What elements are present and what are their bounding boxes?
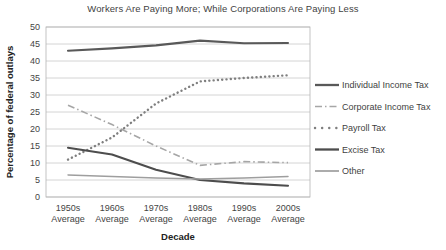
series-group: [68, 41, 288, 186]
legend-label: Corporate Income Tax: [342, 102, 431, 112]
y-axis-title: Percentage of federal outlays: [4, 46, 15, 179]
x-tick-label-average: Average: [227, 214, 260, 224]
x-tick-label-average: Average: [139, 214, 172, 224]
legend-item-other[interactable]: Other: [315, 166, 365, 176]
chart-svg: Percentage of federal outlays 0510152025…: [0, 0, 446, 250]
series-line-payroll-tax: [68, 75, 288, 159]
legend-label: Excise Tax: [342, 145, 385, 155]
y-tick-label: 15: [30, 141, 40, 151]
x-tick-label-decade: 2000s: [276, 203, 301, 213]
legend-item-corporate-income-tax[interactable]: Corporate Income Tax: [315, 102, 431, 112]
y-tick-label: 35: [30, 73, 40, 83]
x-axis-title: Decade: [161, 231, 195, 242]
x-tick-label-average: Average: [183, 214, 216, 224]
legend-label: Other: [342, 166, 365, 176]
y-tick-label: 25: [30, 107, 40, 117]
y-tick-label: 40: [30, 56, 40, 66]
chart-container: Workers Are Paying More; While Corporati…: [0, 0, 446, 250]
legend-label: Individual Income Tax: [342, 80, 429, 90]
y-tick-label: 50: [30, 22, 40, 32]
legend-group: Individual Income TaxCorporate Income Ta…: [315, 80, 431, 176]
y-tick-label: 30: [30, 90, 40, 100]
y-tick-label: 5: [35, 175, 40, 185]
series-line-corporate-income-tax: [68, 105, 288, 165]
gridlines-group: [46, 27, 310, 197]
y-tick-label: 20: [30, 124, 40, 134]
x-tick-labels-group: 1950sAverage1960sAverage1970sAverage1980…: [51, 203, 304, 224]
x-tick-label-decade: 1980s: [188, 203, 213, 213]
legend-label: Payroll Tax: [342, 123, 386, 133]
x-tick-label-average: Average: [95, 214, 128, 224]
x-tick-label-decade: 1970s: [144, 203, 169, 213]
x-tick-label-decade: 1990s: [232, 203, 257, 213]
x-tick-label-decade: 1960s: [100, 203, 125, 213]
y-tick-label: 10: [30, 158, 40, 168]
legend-item-individual-income-tax[interactable]: Individual Income Tax: [315, 80, 429, 90]
x-axis-title-group: Decade: [161, 231, 195, 242]
y-tick-label: 45: [30, 39, 40, 49]
legend-item-payroll-tax[interactable]: Payroll Tax: [315, 123, 386, 133]
y-tick-label: 0: [35, 192, 40, 202]
x-tick-label-average: Average: [271, 214, 304, 224]
x-tick-label-average: Average: [51, 214, 84, 224]
legend-item-excise-tax[interactable]: Excise Tax: [315, 145, 385, 155]
x-tick-label-decade: 1950s: [56, 203, 81, 213]
series-line-individual-income-tax: [68, 41, 288, 51]
y-tick-labels-group: 05101520253035404550: [30, 22, 40, 202]
y-axis-title-group: Percentage of federal outlays: [4, 46, 15, 179]
